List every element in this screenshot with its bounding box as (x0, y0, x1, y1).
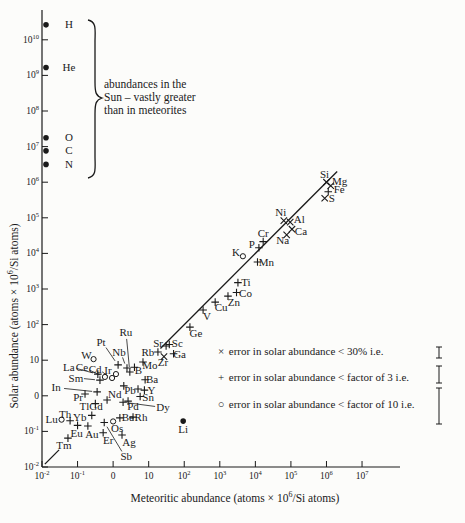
element-label-K: K (232, 246, 240, 258)
y-tick-label: 102 (5, 320, 39, 330)
x-tick-label: 105 (271, 471, 311, 481)
x-tick-label: 0 (93, 471, 133, 481)
point-cross-S (322, 195, 328, 201)
x-tick-label: 103 (200, 471, 240, 481)
annotation-line: than in meteorites (104, 104, 196, 117)
legend-row-circle: ○ error in solar abundance < factor of 1… (216, 398, 415, 410)
element-label-Ce: Ce (76, 361, 88, 373)
element-label-Li: Li (178, 423, 188, 435)
element-label-Si: Si (320, 168, 329, 180)
legend-text: error in solar abundance < 30% i.e. (229, 345, 384, 357)
element-label-Sc: Sc (172, 337, 183, 349)
point-circle-K (240, 254, 245, 259)
point-dot-He (43, 65, 49, 71)
element-label-Pr: Pr (73, 391, 83, 403)
element-label-Fe: Fe (334, 183, 345, 195)
annotation-line: Sun – vastly greater (104, 91, 196, 104)
annotation-line: abundances in the (104, 78, 196, 91)
leader-line-Sm (84, 379, 95, 380)
element-label-B: B (135, 364, 142, 376)
point-plus-Sb (100, 419, 108, 427)
x-axis-title: Meteoritic abundance (atoms × 106/Si ato… (60, 490, 410, 504)
element-label-Be: Be (122, 411, 134, 423)
element-label-Cr: Cr (258, 227, 269, 239)
element-label-Gd: Gd (89, 400, 103, 412)
element-label-Sb: Sb (120, 450, 132, 462)
element-label-Th: Th (59, 408, 72, 420)
element-label-Zr: Zr (158, 356, 169, 368)
element-label-Os: Os (111, 422, 123, 434)
point-circle-Ir (113, 371, 118, 376)
element-label-Nb: Nb (112, 346, 126, 358)
element-label-Ge: Ge (190, 327, 203, 339)
element-label-Lu: Lu (45, 413, 58, 425)
y-tick-label: 1010 (5, 35, 39, 45)
element-label-N: N (65, 158, 73, 170)
element-label-Pt: Pt (97, 336, 106, 348)
legend-text: error in solar abundance < factor of 3 i… (229, 371, 409, 383)
element-label-P: P (249, 238, 255, 250)
element-label-La: La (63, 361, 75, 373)
identity-line (160, 172, 337, 349)
point-plus-P (255, 244, 263, 252)
x-tick-label: 104 (235, 471, 275, 481)
element-label-Er: Er (103, 434, 114, 446)
plot-canvas: HHeOCNSiMgFeSNiAlCaNaCrPKMnTiCoZnCuVGeSr… (0, 0, 465, 523)
y-tick-label: 106 (5, 177, 39, 187)
x-tick-label: 107 (342, 471, 382, 481)
element-label-Tm: Tm (56, 439, 72, 451)
element-label-Mn: Mn (259, 256, 275, 268)
x-tick-label: 10 (129, 471, 169, 481)
element-label-In: In (52, 381, 62, 393)
y-tick-label: 105 (5, 213, 39, 223)
y-tick-label: 108 (5, 106, 39, 116)
x-tick-label: 102 (164, 471, 204, 481)
element-label-H: H (65, 18, 73, 30)
point-dot-H (43, 22, 49, 28)
element-label-C: C (65, 144, 72, 156)
x-tick-label: 10-1 (58, 471, 98, 481)
point-dot-N (43, 162, 49, 168)
point-plus-In (93, 388, 101, 396)
point-cross-Al (287, 219, 293, 225)
element-label-Eu: Eu (70, 427, 83, 439)
point-dot-O (43, 135, 49, 141)
point-dot-C (43, 148, 49, 154)
element-label-Rb: Rb (142, 346, 155, 358)
element-label-Cd: Cd (89, 363, 102, 375)
y-tick-label: 10-1 (5, 426, 39, 436)
element-label-Co: Co (239, 287, 252, 299)
element-label-Zn: Zn (228, 296, 241, 308)
x-tick-label: 10-2 (22, 471, 62, 481)
legend-row-plus: + error in solar abundance < factor of 3… (216, 371, 409, 383)
element-label-Mo: Mo (142, 359, 158, 371)
y-tick-label: 109 (5, 70, 39, 80)
element-label-Ca: Ca (295, 225, 307, 237)
element-label-Al: Al (294, 213, 305, 225)
element-label-Au: Au (85, 428, 99, 440)
point-plus-Pt (114, 361, 122, 369)
legend-row-cross: × error in solar abundance < 30% i.e. (216, 345, 383, 357)
element-label-W: W (81, 349, 92, 361)
element-label-V: V (203, 310, 211, 322)
element-label-Na: Na (276, 234, 289, 246)
element-label-Rh: Rh (135, 411, 148, 423)
element-label-He: He (63, 61, 76, 73)
y-tick-label: 107 (5, 142, 39, 152)
element-label-Yb: Yb (73, 411, 87, 423)
cross-symbol-icon: × (216, 345, 226, 357)
point-cross-Ni (281, 217, 287, 223)
plus-symbol-icon: + (216, 371, 226, 383)
leader-line-Nb (123, 357, 125, 363)
y-tick-label: 104 (5, 248, 39, 258)
element-label-Sn: Sn (142, 391, 154, 403)
element-label-Ir: Ir (104, 364, 112, 376)
y-tick-label: 10 (5, 355, 39, 365)
brace (88, 20, 102, 178)
identity-line (45, 450, 59, 464)
element-label-Sr: Sr (153, 337, 163, 349)
element-label-Nd: Nd (108, 388, 122, 400)
element-label-O: O (65, 131, 73, 143)
y-tick-label: 0 (5, 391, 39, 401)
element-label-Dy: Dy (156, 401, 170, 413)
